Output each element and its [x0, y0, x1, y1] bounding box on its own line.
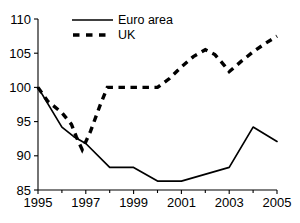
y-tick-label-100: 100 — [9, 80, 31, 95]
line-chart: 859095100105110 199519971999200120032005… — [0, 0, 300, 223]
x-tick-label-1999: 1999 — [119, 195, 148, 210]
x-tick-label-2003: 2003 — [215, 195, 244, 210]
series-line-uk — [38, 36, 277, 150]
y-axis-tick-marks — [34, 19, 38, 190]
legend-label-uk: UK — [118, 28, 136, 42]
y-tick-label-90: 90 — [17, 148, 31, 163]
y-tick-label-105: 105 — [9, 46, 31, 61]
x-tick-label-1995: 1995 — [24, 195, 53, 210]
x-tick-label-1997: 1997 — [71, 195, 100, 210]
y-axis-tick-labels: 859095100105110 — [9, 12, 31, 198]
chart-canvas: 859095100105110 199519971999200120032005… — [0, 0, 300, 223]
chart-legend: Euro area UK — [72, 13, 173, 42]
y-axis: 859095100105110 — [9, 12, 38, 198]
y-tick-label-95: 95 — [17, 114, 31, 129]
plot-area — [38, 36, 277, 181]
x-axis: 199519971999200120032005 — [24, 190, 292, 210]
x-axis-tick-marks — [38, 190, 277, 194]
legend-label-euro-area: Euro area — [118, 13, 173, 27]
x-axis-tick-labels: 199519971999200120032005 — [24, 195, 292, 210]
y-tick-label-110: 110 — [10, 12, 31, 27]
x-tick-label-2005: 2005 — [263, 195, 292, 210]
x-tick-label-2001: 2001 — [167, 195, 196, 210]
